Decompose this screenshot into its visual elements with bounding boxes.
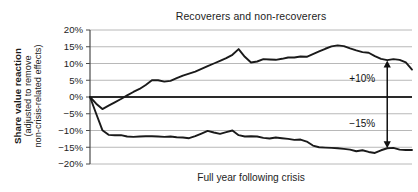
y-tick-label: 0% — [69, 91, 83, 102]
plot-area: 20%15%10%5%0%−5%−10%−15%−20% +10%−15% — [0, 0, 418, 192]
annotation-label: −15% — [349, 118, 375, 129]
series-lines — [90, 45, 412, 153]
y-tick-label: 5% — [69, 75, 83, 86]
annotation-label: +10% — [349, 73, 375, 84]
y-tick-label: −10% — [58, 125, 83, 136]
y-tick-label: 15% — [64, 41, 84, 52]
y-tick-label: 20% — [64, 24, 84, 35]
y-tick-label: −20% — [58, 158, 83, 169]
y-tick-label: 10% — [64, 58, 84, 69]
chart-screenshot: Recoverers and non-recoverers Share valu… — [0, 0, 418, 192]
span-arrow — [384, 60, 391, 148]
y-tick-label: −5% — [64, 108, 84, 119]
y-axis-tick-labels: 20%15%10%5%0%−5%−10%−15%−20% — [58, 24, 83, 169]
annotation-labels: +10%−15% — [349, 73, 375, 129]
y-tick-label: −15% — [58, 142, 83, 153]
